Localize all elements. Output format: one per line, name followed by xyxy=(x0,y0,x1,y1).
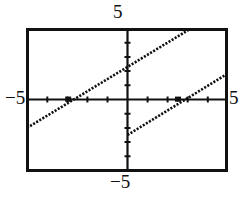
x-intercept-marker-lower xyxy=(175,97,181,102)
x-intercept-marker-upper xyxy=(65,97,71,102)
calculator-viewport-plot xyxy=(0,0,247,199)
graph-figure: 5 −5 −5 5 xyxy=(0,0,247,199)
axis-label-bottom: −5 xyxy=(110,172,130,191)
axis-label-left: −5 xyxy=(5,88,25,107)
axis-label-top: 5 xyxy=(113,2,123,21)
axis-label-right: 5 xyxy=(229,88,239,107)
